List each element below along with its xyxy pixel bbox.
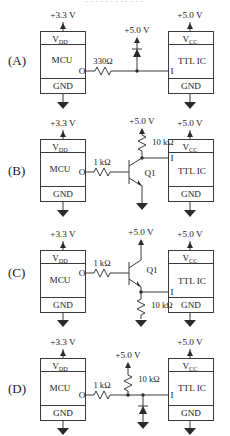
ttl-in-pin-d: I — [170, 390, 173, 400]
ground-symbol-ttl-a — [184, 102, 196, 109]
mcu-out-pin-b: O — [79, 167, 86, 177]
option-tag-c: (C) — [8, 266, 25, 279]
vcc-label-b: VCC — [182, 142, 197, 153]
vcc-arrow-a — [187, 23, 193, 29]
transistor-label-b: Q1 — [144, 168, 156, 178]
gnd-label-b: GND — [53, 189, 73, 199]
mid-supply-label-a: +5.0 V — [124, 25, 150, 35]
gnd-label-c: GND — [53, 300, 73, 310]
transistor-collector-b — [129, 158, 142, 166]
mcu-out-pin-d: O — [79, 390, 86, 400]
ground-symbol-emitter-c — [135, 320, 147, 327]
circuit-option-c: VDD MCU GND +3.3 V O 1 kΩ Q1 +5.0 V — [0, 222, 230, 330]
ttl-gnd-label-d: GND — [181, 408, 201, 418]
vdd-arrow-a — [60, 23, 66, 29]
mcu-supply-label-d: +3.3 V — [50, 337, 76, 347]
resistor-1k-label-d: 1 kΩ — [93, 380, 110, 390]
ground-symbol-diode-d — [137, 422, 149, 429]
circuit-option-a: VDD MCU GND +3.3 V O 330Ω — [0, 6, 230, 114]
ttl-supply-label-c: +5.0 V — [177, 229, 203, 239]
resistor-1k-label-b: 1 kΩ — [93, 157, 110, 167]
mcu-out-pin-c: O — [79, 268, 86, 278]
resistor-1k-d — [91, 391, 114, 399]
resistor-330-label-a: 330Ω — [93, 56, 112, 66]
option-tag-d: (D) — [8, 382, 26, 395]
ground-symbol-emitter-b — [136, 203, 148, 210]
ground-symbol-ttl-c — [184, 320, 196, 327]
vdd-arrow-d — [60, 350, 66, 356]
transistor-collector-c — [129, 260, 141, 268]
ttl-gnd-label-c: GND — [181, 300, 201, 310]
resistor-10k-d — [124, 371, 132, 395]
mid-supply-label-b: +5.0 V — [129, 116, 155, 126]
ttl-in-pin-b: I — [170, 153, 173, 163]
vcc-arrow-d — [187, 350, 193, 356]
circuit-options-sheet: ············ VDD MCU GND +3.3 V O 3 — [0, 0, 230, 436]
ttl-label-c: TTL IC — [178, 276, 206, 286]
ground-symbol-mcu-a — [57, 102, 69, 109]
option-tag-b: (B) — [8, 164, 25, 177]
resistor-10k-label-c: 10 kΩ — [151, 300, 172, 310]
diode-triangle-d — [139, 406, 147, 414]
ttl-supply-label-d: +5.0 V — [177, 337, 203, 347]
ttl-supply-label-a: +5.0 V — [177, 10, 203, 20]
mcu-label-c: MCU — [50, 275, 71, 285]
vcc-arrow-c — [187, 242, 193, 248]
mcu-out-pin-a: O — [79, 66, 86, 76]
resistor-10k-label-b: 10 kΩ — [152, 137, 173, 147]
mid-supply-arrow-c — [138, 239, 144, 245]
ground-symbol-ttl-d — [184, 428, 196, 435]
mid-supply-label-c: +5.0 V — [128, 227, 154, 237]
mid-supply-arrow-b — [139, 128, 145, 134]
circuit-option-d: VDD MCU GND +3.3 V O 1 kΩ +5.0 V 10 kΩ — [0, 330, 230, 436]
mcu-supply-label-b: +3.3 V — [50, 118, 76, 128]
mid-supply-arrow-d — [125, 362, 131, 368]
vdd-label-b: VDD — [52, 142, 68, 153]
circuit-option-b: VDD MCU GND +3.3 V O 1 kΩ Q1 — [0, 114, 230, 222]
ground-symbol-mcu-b — [57, 210, 69, 217]
ground-symbol-ttl-b — [184, 210, 196, 217]
vdd-label-a: VDD — [52, 34, 68, 45]
ttl-label-b: TTL IC — [178, 166, 206, 176]
mcu-label-d: MCU — [50, 383, 71, 393]
ttl-gnd-label-a: GND — [181, 81, 201, 91]
ttl-gnd-label-b: GND — [181, 189, 201, 199]
mcu-label-b: MCU — [50, 164, 71, 174]
ground-symbol-mcu-c — [57, 320, 69, 327]
mid-supply-label-d: +5.0 V — [115, 350, 141, 360]
ttl-supply-label-b: +5.0 V — [177, 118, 203, 128]
ttl-label-a: TTL IC — [178, 56, 206, 66]
ground-symbol-mcu-d — [57, 428, 69, 435]
option-tag-a: (A) — [8, 54, 26, 67]
vdd-arrow-b — [60, 131, 66, 137]
resistor-1k-label-c: 1 kΩ — [93, 258, 110, 268]
ttl-label-d: TTL IC — [178, 383, 206, 393]
gnd-label-d: GND — [53, 408, 73, 418]
resistor-1k-c — [91, 269, 114, 277]
mcu-supply-label-c: +3.3 V — [50, 229, 76, 239]
gnd-label-a: GND — [53, 81, 73, 91]
vcc-arrow-b — [187, 131, 193, 137]
vdd-arrow-c — [60, 242, 66, 248]
resistor-10k-label-d: 10 kΩ — [138, 374, 159, 384]
mcu-supply-label-a: +3.3 V — [50, 10, 76, 20]
vdd-label-c: VDD — [52, 253, 68, 264]
mid-supply-arrow-a — [134, 37, 140, 43]
resistor-330-a — [92, 67, 114, 75]
diode-triangle-a — [133, 49, 141, 57]
vcc-label-d: VCC — [182, 361, 197, 372]
resistor-10k-b — [138, 131, 146, 154]
resistor-10k-c — [137, 296, 145, 319]
junction-dot-a — [135, 69, 138, 72]
vdd-label-d: VDD — [52, 361, 68, 372]
ttl-in-pin-a: I — [170, 66, 173, 76]
vcc-label-c: VCC — [182, 253, 197, 264]
transistor-label-c: Q1 — [146, 265, 158, 275]
ttl-in-pin-c: I — [170, 287, 173, 297]
vcc-label-a: VCC — [182, 34, 197, 45]
mcu-label-a: MCU — [52, 55, 73, 65]
resistor-1k-b — [91, 168, 114, 176]
